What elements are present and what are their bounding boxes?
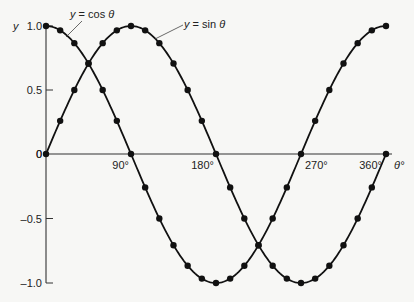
x-tick-label: 360° xyxy=(359,159,382,171)
sin-point xyxy=(227,184,233,190)
x-axis-label: θ° xyxy=(394,159,405,171)
cos-point xyxy=(170,242,176,248)
sin-point xyxy=(114,27,120,33)
cos-point xyxy=(298,151,304,157)
sin-point xyxy=(57,118,63,124)
sin-point xyxy=(369,184,375,190)
sin-point xyxy=(354,215,360,221)
cos-label: y = cos θ xyxy=(69,8,114,20)
cos-point xyxy=(312,118,318,124)
sin-point xyxy=(326,263,332,269)
cos-point xyxy=(114,118,120,124)
cos-point xyxy=(284,184,290,190)
cos-point xyxy=(184,263,190,269)
sin-point xyxy=(199,118,205,124)
sin-point xyxy=(312,275,318,281)
cos-point xyxy=(199,275,205,281)
sin-point xyxy=(170,60,176,66)
trig-chart: 1.00.50–0.5–1.0y90°180°270°360°θ°y = cos… xyxy=(0,0,414,302)
cos-point xyxy=(369,27,375,33)
cos-point xyxy=(213,280,219,286)
cos-point xyxy=(340,60,346,66)
sin-point xyxy=(43,151,49,157)
sin-point xyxy=(213,151,219,157)
sin-point xyxy=(383,151,389,157)
sin-point xyxy=(241,215,247,221)
y-tick-label: 0.5 xyxy=(27,84,42,96)
cos-point xyxy=(227,275,233,281)
sin-point xyxy=(269,263,275,269)
sin-point xyxy=(71,87,77,93)
cos-point xyxy=(156,215,162,221)
sin-point xyxy=(340,242,346,248)
sin-label-leader xyxy=(155,25,183,39)
y-axis-label: y xyxy=(12,20,20,32)
cos-point xyxy=(255,242,261,248)
cos-point xyxy=(85,60,91,66)
sin-point xyxy=(184,87,190,93)
x-tick-label: 180° xyxy=(191,159,214,171)
cos-point xyxy=(43,23,49,29)
x-tick-label: 90° xyxy=(112,159,129,171)
sin-point xyxy=(128,23,134,29)
cos-point xyxy=(241,263,247,269)
y-tick-label: –1.0 xyxy=(21,277,42,289)
cos-point xyxy=(99,87,105,93)
origin-label: 0 xyxy=(36,148,42,160)
cos-point xyxy=(326,87,332,93)
cos-point xyxy=(269,215,275,221)
sin-point xyxy=(156,40,162,46)
cos-point xyxy=(128,151,134,157)
cos-point xyxy=(383,23,389,29)
cos-point xyxy=(57,27,63,33)
sin-point xyxy=(284,275,290,281)
sin-point xyxy=(99,40,105,46)
sin-point xyxy=(298,280,304,286)
cos-point xyxy=(71,40,77,46)
cos-label-leader xyxy=(66,21,82,37)
x-tick-label: 270° xyxy=(305,159,328,171)
y-tick-label: –0.5 xyxy=(21,213,42,225)
y-tick-label: 1.0 xyxy=(27,20,42,32)
sin-point xyxy=(142,27,148,33)
cos-point xyxy=(142,184,148,190)
sin-label: y = sin θ xyxy=(183,18,225,30)
cos-point xyxy=(354,40,360,46)
